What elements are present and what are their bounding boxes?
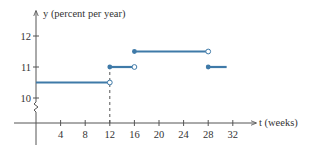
x-tick-label: 20 (154, 129, 165, 140)
x-tick-label: 28 (203, 129, 214, 140)
x-tick-label: 16 (129, 129, 140, 140)
open-endpoint-icon (107, 80, 112, 85)
open-endpoint-icon (132, 65, 137, 70)
ticks: 48121620242832101112 (21, 31, 239, 140)
x-tick-label: 24 (178, 129, 189, 140)
x-axis-label: t (weeks) (259, 117, 298, 129)
y-axis-label: y (percent per year) (43, 8, 126, 20)
closed-endpoint-icon (107, 65, 112, 70)
y-tick-label: 11 (21, 62, 31, 73)
axes (14, 11, 256, 145)
x-tick-label: 12 (105, 129, 116, 140)
y-tick-label: 10 (21, 93, 32, 104)
axis-break-icon (34, 102, 38, 112)
step-chart: 48121620242832101112 y (percent per year… (0, 0, 327, 147)
y-tick-label: 12 (21, 31, 32, 42)
data-series (36, 49, 227, 123)
open-endpoint-icon (206, 49, 211, 54)
closed-endpoint-icon (132, 49, 137, 54)
closed-endpoint-icon (206, 65, 211, 70)
x-tick-label: 4 (58, 129, 64, 140)
x-tick-label: 32 (228, 129, 239, 140)
x-tick-label: 8 (83, 129, 88, 140)
